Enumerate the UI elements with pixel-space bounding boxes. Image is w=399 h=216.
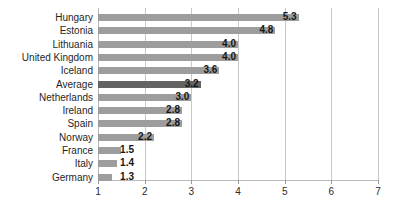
category-label: Norway [0,131,93,144]
bar-row: Iceland3.6 [0,64,399,77]
bar-value-label: 3.0 [155,90,189,103]
bar-value-label: 2.8 [146,103,180,116]
bar-row: Lithuania4.0 [0,38,399,51]
x-tick-label: 2 [130,186,160,198]
bar-row: Hungary5.3 [0,11,399,24]
bar-value-label: 1.3 [100,170,134,183]
bar-value-label: 3.2 [165,77,199,90]
bar-row: Average3.2 [0,78,399,91]
x-tick-label: 5 [270,186,300,198]
x-tick-label: 3 [176,186,206,198]
bar-row: Italy1.4 [0,157,399,170]
category-label: France [0,144,93,157]
bar-row: Germany1.3 [0,171,399,184]
bar-value-label: 3.6 [183,63,217,76]
category-label: Italy [0,157,93,170]
category-label: Ireland [0,104,93,117]
bar-value-label: 2.8 [146,116,180,129]
bar-value-label: 1.5 [100,143,134,156]
bar-row: Estonia4.8 [0,24,399,37]
category-label: Germany [0,171,93,184]
bar-row: France1.5 [0,144,399,157]
category-label: Estonia [0,24,93,37]
bar-row: Norway2.2 [0,131,399,144]
bar-value-label: 4.8 [239,23,273,36]
bar-row: United Kingdom4.0 [0,51,399,64]
bar-value-label: 4.0 [202,50,236,63]
x-tick-label: 6 [316,186,346,198]
bar-value-label: 4.0 [202,37,236,50]
category-label: Lithuania [0,38,93,51]
category-label: Spain [0,117,93,130]
category-label: United Kingdom [0,51,93,64]
bar-row: Ireland2.8 [0,104,399,117]
category-label: Netherlands [0,91,93,104]
category-label: Average [0,78,93,91]
x-tick-label: 4 [223,186,253,198]
bar-row: Spain2.8 [0,117,399,130]
x-tick-label: 1 [83,186,113,198]
category-label: Iceland [0,64,93,77]
bar-row: Netherlands3.0 [0,91,399,104]
bar-chart: 1234567 Hungary5.3Estonia4.8Lithuania4.0… [0,0,399,216]
category-label: Hungary [0,11,93,24]
bar-value-label: 1.4 [100,156,134,169]
bar-value-label: 5.3 [263,10,297,23]
x-tick-label: 7 [363,186,393,198]
bar-value-label: 2.2 [118,130,152,143]
